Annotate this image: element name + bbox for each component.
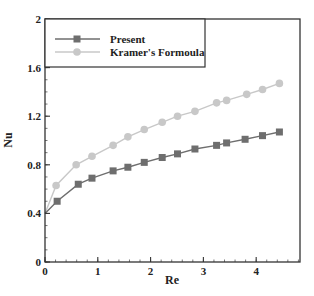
square-marker-icon (124, 164, 131, 171)
circle-marker-icon (276, 80, 284, 88)
square-marker-icon (276, 128, 283, 135)
series-present (45, 128, 283, 213)
circle-marker-icon (72, 161, 80, 169)
x-tick-label: 3 (201, 265, 207, 277)
square-marker-icon (213, 142, 220, 149)
circle-marker-icon (124, 133, 132, 141)
legend: Present Kramer's Formoula (45, 19, 205, 67)
circle-marker-icon (174, 112, 182, 120)
y-tick-label: 0.4 (27, 207, 41, 219)
y-tick-label: 0.8 (27, 159, 41, 171)
x-tick-label: 0 (42, 265, 48, 277)
square-marker-icon (54, 198, 61, 205)
circle-marker-icon (213, 99, 221, 107)
x-axis-ticks: 01234 (42, 257, 259, 277)
series-layer (45, 80, 283, 214)
x-axis-title: Re (165, 273, 180, 287)
x-tick-label: 2 (148, 265, 154, 277)
square-marker-icon (223, 139, 230, 146)
circle-marker-icon (52, 182, 60, 190)
series-kramer (45, 80, 283, 214)
circle-marker-icon (223, 97, 231, 105)
y-tick-label: 2 (36, 13, 42, 25)
square-marker-icon (75, 181, 82, 188)
y-tick-label: 1.2 (27, 110, 41, 122)
series-line (45, 83, 279, 213)
circle-marker-icon (243, 91, 251, 99)
x-tick-label: 4 (253, 265, 259, 277)
square-marker-icon (174, 150, 181, 157)
circle-marker-icon (158, 118, 166, 126)
circle-marker-icon (140, 126, 148, 134)
y-tick-label: 1.6 (27, 62, 41, 74)
square-marker-icon (259, 132, 266, 139)
legend-label-kramer: Kramer's Formoula (110, 46, 205, 58)
circle-marker-icon (88, 152, 96, 160)
circle-marker-icon (73, 48, 81, 56)
square-marker-icon (110, 167, 117, 174)
square-marker-icon (88, 175, 95, 182)
y-tick-label: 0 (36, 256, 42, 268)
y-axis-title: Nu (1, 132, 15, 148)
legend-label-present: Present (110, 33, 146, 45)
square-marker-icon (242, 136, 249, 143)
x-tick-label: 1 (95, 265, 101, 277)
series-line (45, 132, 279, 213)
circle-marker-icon (191, 108, 199, 116)
circle-marker-icon (109, 142, 117, 150)
square-marker-icon (141, 159, 148, 166)
circle-marker-icon (259, 86, 267, 94)
square-marker-icon (74, 36, 81, 43)
square-marker-icon (191, 146, 198, 153)
line-chart: 01234 00.40.81.21.62 Re Nu Present Krame… (0, 0, 314, 296)
square-marker-icon (159, 154, 166, 161)
